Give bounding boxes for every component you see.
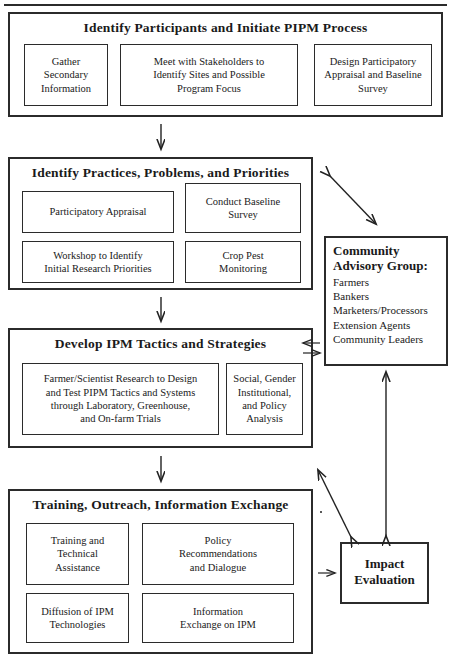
box-information-exchange-on-ipm: Information Exchange on IPM — [142, 593, 294, 643]
stage-4-title: Training, Outreach, Information Exchange — [14, 497, 307, 513]
stage-3-title: Develop IPM Tactics and Strategies — [14, 336, 307, 352]
box-policy-recommendations: Policy Recommendations and Dialogue — [142, 523, 294, 585]
top-divider-rule — [4, 4, 447, 6]
box-line: Recommendations — [179, 547, 257, 560]
box-line: Participatory Appraisal — [49, 205, 146, 218]
pipm-process-diagram: Identify Participants and Initiate PIPM … — [0, 0, 451, 665]
cag-title-line: Community — [333, 243, 446, 258]
box-line: Survey — [206, 208, 280, 221]
community-advisory-group-box: Community Advisory Group: Farmers Banker… — [324, 236, 448, 366]
box-line: Information — [180, 605, 256, 618]
box-line: Gather — [41, 55, 91, 68]
box-line: Monitoring — [219, 262, 267, 275]
box-line: Initial Research Priorities — [44, 262, 151, 275]
box-line: Institutional, — [233, 386, 295, 399]
stage-identify-participants: Identify Participants and Initiate PIPM … — [8, 12, 443, 117]
cag-member: Farmers — [333, 275, 446, 289]
box-diffusion-of-ipm-technologies: Diffusion of IPM Technologies — [26, 593, 129, 643]
stage-1-title: Identify Participants and Initiate PIPM … — [14, 20, 437, 36]
box-meet-with-stakeholders: Meet with Stakeholders to Identify Sites… — [120, 44, 298, 106]
box-farmer-scientist-research: Farmer/Scientist Research to Design and … — [22, 363, 219, 435]
box-line: Appraisal and Baseline — [324, 68, 421, 81]
box-participatory-appraisal: Participatory Appraisal — [22, 191, 174, 233]
box-line: Farmer/Scientist Research to Design — [44, 372, 198, 385]
box-line: Assistance — [51, 561, 105, 574]
box-line: Technologies — [41, 618, 114, 631]
box-social-gender-policy-analysis: Social, Gender Institutional, and Policy… — [226, 363, 303, 435]
box-line: and Test PIPM Tactics and Systems — [44, 386, 198, 399]
cag-title: Community Advisory Group: — [333, 243, 446, 274]
box-line: through Laboratory, Greenhouse, — [44, 399, 198, 412]
box-training-technical-assistance: Training and Technical Assistance — [26, 523, 129, 585]
box-line: Program Focus — [153, 82, 265, 95]
cag-member-list: Farmers Bankers Marketers/Processors Ext… — [326, 275, 446, 346]
cag-member: Extension Agents — [333, 318, 446, 332]
cag-member: Community Leaders — [333, 332, 446, 346]
box-line: Information — [41, 82, 91, 95]
box-line: Policy — [179, 534, 257, 547]
box-line: Analysis — [233, 412, 295, 425]
box-line: Secondary — [41, 68, 91, 81]
box-line: and Dialogue — [179, 561, 257, 574]
box-workshop-to-identify-priorities: Workshop to Identify Initial Research Pr… — [22, 241, 174, 283]
stage-identify-practices: Identify Practices, Problems, and Priori… — [8, 157, 313, 290]
stage-develop-ipm-tactics: Develop IPM Tactics and Strategies Farme… — [8, 328, 313, 448]
box-line: Social, Gender — [233, 372, 295, 385]
arrow-stage4-to-community-advisory-group — [318, 470, 351, 537]
box-line: Exchange on IPM — [180, 618, 256, 631]
cag-member: Bankers — [333, 289, 446, 303]
stage-2-title: Identify Practices, Problems, and Priori… — [14, 165, 307, 181]
box-crop-pest-monitoring: Crop Pest Monitoring — [185, 241, 301, 283]
box-line: Identify Sites and Possible — [153, 68, 265, 81]
arrow-stage2-to-community-advisory-group — [330, 176, 376, 224]
box-line: Conduct Baseline — [206, 195, 280, 208]
box-line: Diffusion of IPM — [41, 605, 114, 618]
stage-training-outreach: Training, Outreach, Information Exchange… — [8, 489, 313, 654]
box-line: Technical — [51, 547, 105, 560]
impact-evaluation-box: Impact Evaluation — [340, 542, 429, 604]
box-line: Meet with Stakeholders to — [153, 55, 265, 68]
box-line: Survey — [324, 82, 421, 95]
impact-line: Evaluation — [342, 572, 427, 588]
box-line: Crop Pest — [219, 249, 267, 262]
box-line: Design Participatory — [324, 55, 421, 68]
cag-member: Marketers/Processors — [333, 303, 446, 317]
box-gather-secondary-information: Gather Secondary Information — [24, 44, 108, 106]
cag-title-line: Advisory Group: — [333, 258, 446, 273]
box-line: Training and — [51, 534, 105, 547]
box-design-participatory-appraisal: Design Participatory Appraisal and Basel… — [314, 44, 432, 106]
box-line: and Policy — [233, 399, 295, 412]
box-conduct-baseline-survey: Conduct Baseline Survey — [185, 183, 301, 233]
box-line: and On-farm Trials — [44, 412, 198, 425]
box-line: Workshop to Identify — [44, 249, 151, 262]
impact-line: Impact — [342, 556, 427, 572]
impact-evaluation-label: Impact Evaluation — [342, 556, 427, 589]
